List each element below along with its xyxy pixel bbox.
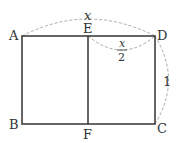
measure-AD-label: x: [84, 8, 92, 23]
label-F: F: [83, 127, 92, 142]
label-A: A: [8, 28, 19, 43]
label-D: D: [157, 28, 167, 43]
measure-ED-denominator: 2: [118, 51, 125, 64]
label-B: B: [9, 117, 19, 132]
label-C: C: [157, 121, 167, 136]
label-E: E: [83, 21, 93, 36]
rectangle-diagram: A E D B F C x x 2 1: [0, 0, 180, 143]
measure-ED-numerator: x: [119, 37, 126, 50]
measure-DC-label: 1: [163, 74, 171, 89]
